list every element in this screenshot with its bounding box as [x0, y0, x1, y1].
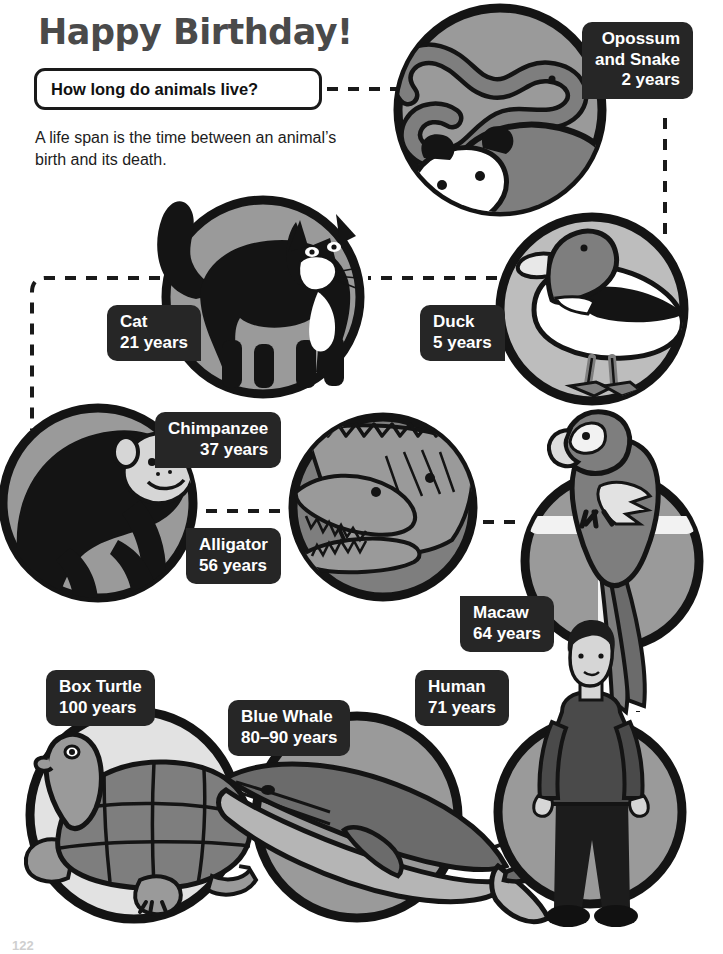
label-blue-whale: Blue Whale 80–90 years: [228, 700, 350, 756]
question-callout-box: How long do animals live?: [34, 68, 322, 110]
label-alligator: Alligator 56 years: [186, 528, 281, 584]
infographic-page: Happy Birthday! How long do animals live…: [0, 0, 723, 954]
label-lifespan: 21 years: [120, 333, 188, 354]
intro-paragraph: A life span is the time between an anima…: [35, 127, 365, 170]
label-macaw: Macaw 64 years: [460, 596, 554, 652]
label-human: Human 71 years: [415, 670, 509, 726]
label-name: Chimpanzee: [168, 419, 268, 440]
label-duck: Duck 5 years: [420, 305, 505, 361]
label-opossum-and-snake: Opossum and Snake 2 years: [582, 22, 693, 99]
label-chimpanzee: Chimpanzee 37 years: [155, 412, 281, 468]
illustration-alligator: [293, 417, 473, 597]
label-lifespan: 37 years: [168, 440, 268, 461]
label-cat: Cat 21 years: [107, 305, 201, 361]
label-box-turtle: Box Turtle 100 years: [46, 670, 155, 726]
illustration-cat: [157, 200, 360, 394]
illustration-human: [498, 620, 682, 927]
label-name: Duck: [433, 312, 492, 333]
label-lifespan: 71 years: [428, 698, 496, 719]
label-name: Alligator: [199, 535, 268, 556]
label-lifespan: 5 years: [433, 333, 492, 354]
label-lifespan: 2 years: [595, 70, 680, 91]
label-name: Blue Whale: [241, 707, 337, 728]
label-name-line-1: Opossum: [595, 29, 680, 50]
page-title: Happy Birthday!: [38, 12, 352, 52]
label-lifespan: 64 years: [473, 624, 541, 645]
label-name: Box Turtle: [59, 677, 142, 698]
page-number: 122: [12, 938, 34, 953]
label-name-line-2: and Snake: [595, 50, 680, 71]
label-name: Cat: [120, 312, 188, 333]
illustration-duck: [500, 217, 684, 401]
label-name: Macaw: [473, 603, 541, 624]
label-lifespan: 80–90 years: [241, 728, 337, 749]
label-name: Human: [428, 677, 496, 698]
label-lifespan: 56 years: [199, 556, 268, 577]
label-lifespan: 100 years: [59, 698, 142, 719]
question-text: How long do animals live?: [51, 80, 258, 99]
